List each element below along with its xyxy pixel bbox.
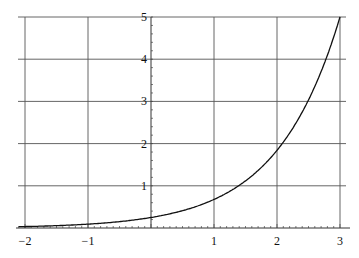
y-tick-label: 1 — [141, 179, 147, 193]
x-tick-label: 1 — [211, 234, 217, 248]
plot-area: −2−112312345 — [0, 0, 359, 258]
chart: −2−112312345 — [0, 0, 359, 258]
x-tick-label: 3 — [337, 234, 343, 248]
y-tick-label: 5 — [141, 10, 147, 24]
y-tick-label: 4 — [141, 52, 147, 66]
x-tick-label: −1 — [82, 234, 95, 248]
y-tick-label: 3 — [141, 94, 147, 108]
data-curve — [19, 17, 340, 227]
x-tick-label: −2 — [19, 234, 32, 248]
y-tick-label: 2 — [141, 137, 147, 151]
x-tick-label: 2 — [274, 234, 280, 248]
